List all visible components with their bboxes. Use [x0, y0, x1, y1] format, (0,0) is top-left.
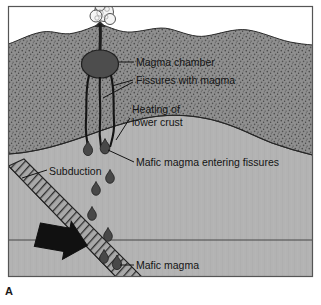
label-fissures-with-magma: Fissures with magma [136, 74, 235, 86]
label-subduction: Subduction [49, 165, 102, 177]
magma-chamber-body [82, 50, 119, 78]
panel-letter-label: A [5, 285, 13, 297]
volcanic-arc-diagram: Magma chamber Fissures with magma Heatin… [0, 0, 321, 305]
label-magma-chamber: Magma chamber [136, 56, 215, 68]
label-heating-line2: lower crust [132, 116, 183, 128]
label-mafic-magma: Mafic magma [136, 259, 199, 271]
label-mafic-magma-entering-fissures: Mafic magma entering fissures [136, 156, 279, 168]
figure-panel-a: Magma chamber Fissures with magma Heatin… [0, 0, 321, 305]
diagram-body: Magma chamber Fissures with magma Heatin… [8, 1, 313, 277]
label-heating-line1: Heating of [132, 103, 180, 115]
